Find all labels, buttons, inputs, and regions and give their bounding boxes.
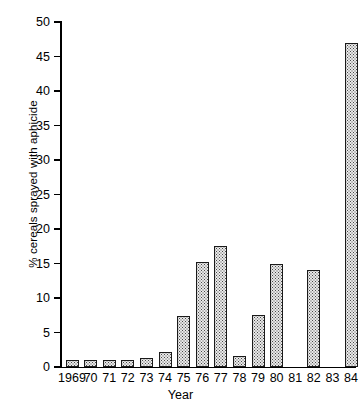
y-tick-label: 20 bbox=[10, 223, 50, 236]
bar bbox=[140, 358, 153, 367]
bar bbox=[252, 315, 265, 367]
y-tick-label: 40 bbox=[10, 85, 50, 98]
bar bbox=[177, 316, 190, 367]
bar bbox=[345, 43, 358, 367]
bar bbox=[214, 246, 227, 367]
y-tick-mark bbox=[54, 125, 61, 127]
y-tick-mark bbox=[54, 366, 61, 368]
bar bbox=[196, 262, 209, 367]
bar-chart-figure: % cereals sprayed with aphicide 05101520… bbox=[0, 0, 361, 412]
y-tick-label: 0 bbox=[10, 361, 50, 374]
y-tick-mark bbox=[54, 228, 61, 230]
y-tick-mark bbox=[54, 332, 61, 334]
y-tick-label: 45 bbox=[10, 51, 50, 64]
y-tick-mark bbox=[54, 263, 61, 265]
bar bbox=[159, 352, 172, 367]
y-tick-label: 5 bbox=[10, 327, 50, 340]
bar bbox=[121, 360, 134, 367]
y-tick-label: 25 bbox=[10, 189, 50, 202]
bar bbox=[84, 360, 97, 367]
bar bbox=[270, 264, 283, 367]
y-tick-label: 10 bbox=[10, 292, 50, 305]
bar bbox=[233, 356, 246, 367]
y-tick-label: 50 bbox=[10, 16, 50, 29]
y-tick-mark bbox=[54, 297, 61, 299]
y-tick-mark bbox=[54, 159, 61, 161]
x-axis-title: Year bbox=[0, 388, 361, 402]
bar bbox=[307, 270, 320, 367]
bar bbox=[103, 360, 116, 367]
y-tick-label: 15 bbox=[10, 258, 50, 271]
y-tick-mark bbox=[54, 90, 61, 92]
x-tick-label: 84 bbox=[336, 372, 361, 385]
y-tick-mark bbox=[54, 194, 61, 196]
y-tick-label: 35 bbox=[10, 120, 50, 133]
bar bbox=[66, 360, 79, 367]
y-tick-mark bbox=[54, 21, 61, 23]
y-tick-mark bbox=[54, 56, 61, 58]
y-tick-label: 30 bbox=[10, 154, 50, 167]
